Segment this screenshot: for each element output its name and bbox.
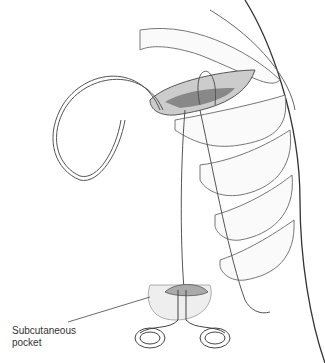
label-line-1: Subcutaneous [12, 325, 76, 337]
ribs [140, 28, 294, 280]
label-line-2: pocket [12, 337, 76, 349]
illustration [0, 0, 325, 363]
leader-line [68, 297, 150, 322]
subcutaneous-pocket-label: Subcutaneous pocket [12, 325, 76, 349]
